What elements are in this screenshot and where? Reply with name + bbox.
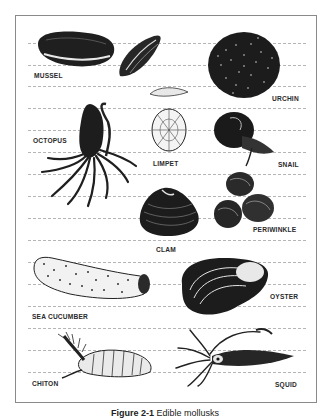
squid-illustration xyxy=(172,326,296,388)
label-clam: CLAM xyxy=(156,246,176,253)
label-squid: SQUID xyxy=(275,381,297,388)
rule-line xyxy=(28,240,306,241)
octopus-illustration xyxy=(36,100,140,208)
label-octopus: OCTOPUS xyxy=(33,137,67,144)
label-urchin: URCHIN xyxy=(272,95,299,102)
label-sea-cucumber: SEA CUCUMBER xyxy=(32,313,88,320)
figure-caption: Figure 2-1 Edible mollusks xyxy=(0,408,330,418)
label-chiton: CHITON xyxy=(32,380,58,387)
caption-number: Figure 2-1 xyxy=(111,408,154,418)
label-snail: SNAIL xyxy=(278,161,299,168)
chiton-illustration xyxy=(50,330,158,380)
label-mussel: MUSSEL xyxy=(34,72,63,79)
urchin-illustration xyxy=(206,30,282,100)
label-limpet: LIMPET xyxy=(153,160,178,167)
periwinkle-illustration xyxy=(212,170,278,232)
limpet-illustration xyxy=(148,82,190,152)
caption-text: Edible mollusks xyxy=(157,408,220,418)
snail-illustration xyxy=(212,108,278,168)
label-oyster: OYSTER xyxy=(270,293,298,300)
sea-cucumber-illustration xyxy=(30,254,152,308)
clam-illustration xyxy=(136,186,202,238)
oyster-illustration xyxy=(176,256,272,320)
label-periwinkle: PERIWINKLE xyxy=(253,226,296,233)
